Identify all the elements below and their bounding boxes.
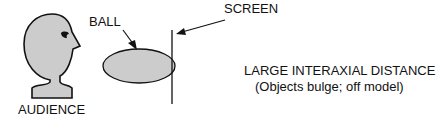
diagram-subtitle: (Objects bulge; off model) [255,80,404,93]
ball-label: BALL [89,15,121,28]
diagram-title: LARGE INTERAXIAL DISTANCE [244,64,435,77]
screen-arrow-line [182,20,225,32]
audience-head-icon [24,14,80,98]
audience-label: AUDIENCE [18,103,85,116]
ball-ellipse [103,49,175,83]
ball-arrow-head-icon [128,40,137,50]
screen-arrow-head-icon [176,28,186,35]
screen-label: SCREEN [224,2,278,15]
